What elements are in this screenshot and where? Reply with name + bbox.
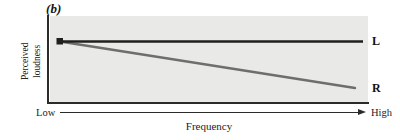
x-axis-tick-high: High [371, 107, 392, 119]
x-axis-direction-row: Low High [36, 105, 392, 120]
x-axis-tick-low: Low [36, 107, 55, 119]
x-axis-title: Frequency [50, 120, 368, 133]
series-label-l: L [372, 35, 380, 47]
series-label-r: R [372, 82, 381, 94]
x-axis-arrow-icon [60, 109, 366, 117]
plot-area [50, 16, 368, 103]
x-axis-line [47, 102, 369, 104]
figure-panel-b: (b) Perceived loudness L R Low High Freq… [0, 0, 400, 140]
y-axis-line [47, 15, 49, 104]
panel-letter: (b) [46, 1, 61, 16]
y-axis-title-line-2: loudness [31, 24, 44, 98]
y-axis-title: Perceived loudness [14, 24, 46, 98]
